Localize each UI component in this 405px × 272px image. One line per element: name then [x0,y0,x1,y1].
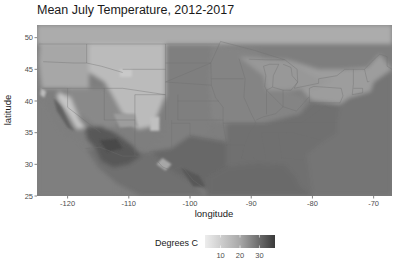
detail-sangre-de-cristo [150,117,159,131]
y-axis-title: latitude [2,95,13,126]
x-tick-label: -100 [183,199,198,208]
legend-title: Degrees C [155,238,199,248]
y-tick-label: 25 [25,192,33,201]
y-tick-label: 40 [25,97,33,106]
region-pacific-northwest [39,44,89,88]
chart: Mean July Temperature, 2012-2017 -120-11… [0,0,405,272]
legend-tick-label: 20 [236,251,244,260]
chart-title: Mean July Temperature, 2012-2017 [37,3,234,17]
y-tick-label: 50 [25,33,33,42]
detail-yellowstone [120,69,132,77]
y-tick-label: 45 [25,65,33,74]
x-tick-label: -90 [246,199,257,208]
y-tick-label: 30 [25,160,33,169]
legend-tick-label: 10 [216,251,224,260]
plot-panel [37,25,392,196]
x-tick-label: -110 [122,199,136,208]
region-canada-south [37,25,392,44]
x-tick-label: -70 [368,199,379,208]
legend: Degrees C 102030 [155,235,275,260]
x-tick-label: -120 [60,199,75,208]
legend-tick-label: 30 [255,251,263,260]
x-tick-label: -80 [307,199,318,208]
y-tick-label: 35 [25,128,33,137]
x-axis-title: longitude [195,208,234,219]
